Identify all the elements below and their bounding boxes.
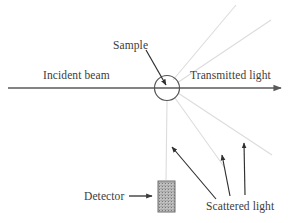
label-detector: Detector: [84, 191, 124, 203]
label-transmitted-light: Transmitted light: [190, 70, 271, 82]
detector-rectangle: [158, 181, 175, 212]
scattered-ray-down-steep: [166, 101, 167, 180]
diagram-canvas: [0, 0, 296, 223]
scattered-pointer-right: [244, 143, 245, 195]
scattered-pointer-group: [172, 143, 245, 199]
label-sample: Sample: [113, 40, 148, 52]
scattered-pointer-middle: [222, 155, 230, 196]
scattered-ray-down-mid: [175, 98, 225, 168]
label-incident-beam: Incident beam: [43, 70, 110, 82]
light-scattering-diagram: Sample Incident beam Transmitted light D…: [0, 0, 296, 223]
scattered-ray-group: [166, 5, 272, 180]
scattered-ray-down-shallow: [178, 93, 272, 155]
label-scattered-light: Scattered light: [206, 201, 274, 213]
sample-pointer-arrow: [146, 50, 166, 85]
scattered-pointer-left: [172, 147, 216, 199]
